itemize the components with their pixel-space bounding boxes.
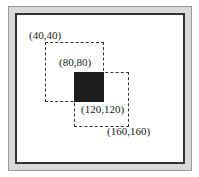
- label-160-160: (160,160): [107, 126, 150, 137]
- label-80-80: (80,80): [59, 57, 91, 68]
- label-40-40: (40,40): [29, 30, 61, 41]
- label-120-120: (120,120): [81, 104, 124, 115]
- intersection-rect: [74, 72, 104, 102]
